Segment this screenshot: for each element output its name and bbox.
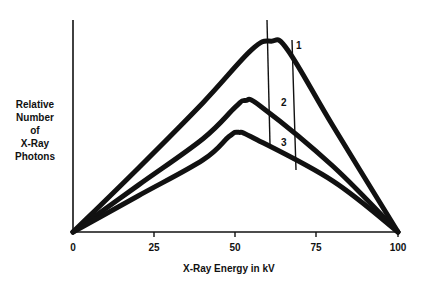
- x-tick-label: 75: [310, 242, 321, 253]
- x-tick-label: 0: [70, 242, 76, 253]
- x-tick-label: 100: [390, 242, 407, 253]
- series-curve-2: [73, 99, 398, 232]
- y-title-line: of: [2, 124, 68, 137]
- x-tick-label: 25: [148, 242, 159, 253]
- y-title-line: Number: [2, 111, 68, 124]
- x-axis-title: X-Ray Energy in kV: [183, 263, 275, 274]
- curve-label-3: 3: [281, 137, 287, 148]
- curve-label-1: 1: [296, 40, 302, 51]
- curve-label-2: 2: [281, 97, 287, 108]
- y-title-line: Relative: [2, 98, 68, 111]
- y-axis-title: Relative Number of X-Ray Photons: [2, 98, 68, 163]
- x-tick-label: 50: [229, 242, 240, 253]
- y-title-line: X-Ray: [2, 137, 68, 150]
- y-title-line: Photons: [2, 150, 68, 163]
